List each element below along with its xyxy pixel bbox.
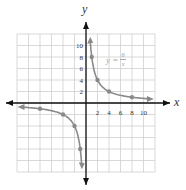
curve-arrow-up-icon	[87, 37, 93, 44]
data-point	[130, 95, 134, 99]
equation-lhs: y =	[106, 55, 118, 65]
x-axis-label: x	[174, 95, 179, 110]
y-tick-label: 10	[76, 42, 84, 50]
x-tick-label: 6	[119, 109, 123, 117]
y-tick-label: 8	[80, 54, 84, 62]
curve-arrow-right-icon	[147, 96, 154, 102]
y-axis-arrow-up-icon	[83, 22, 89, 29]
data-point	[95, 78, 99, 82]
y-tick-label: 6	[80, 65, 84, 73]
x-axis-arrow-right-icon	[163, 100, 170, 106]
x-tick-label: 10	[140, 109, 148, 117]
data-point	[61, 112, 65, 116]
y-axis-arrow-down-icon	[83, 178, 89, 185]
data-point	[90, 55, 94, 59]
equation-label: y = 8 x	[106, 51, 126, 68]
y-tick-label: 4	[80, 77, 84, 85]
y-tick-label: 2	[80, 88, 84, 96]
y-axis-label: y	[82, 2, 87, 17]
x-tick-label: 4	[107, 109, 111, 117]
equation-denominator: x	[122, 60, 125, 68]
curve-arrow-down-icon	[79, 162, 85, 169]
hyperbola-chart: 246810246810	[0, 0, 186, 190]
curve-arrow-left-icon	[18, 104, 25, 110]
curve-branch-negative	[20, 107, 82, 166]
x-axis-arrow-left-icon	[6, 100, 13, 106]
data-point	[107, 89, 111, 93]
x-tick-label: 8	[130, 109, 134, 117]
x-tick-label: 2	[96, 109, 100, 117]
data-point	[38, 107, 42, 111]
equation-numerator: 8	[120, 51, 126, 60]
curve-branch-positive	[90, 40, 149, 99]
data-point	[72, 124, 76, 128]
data-point	[78, 147, 82, 151]
